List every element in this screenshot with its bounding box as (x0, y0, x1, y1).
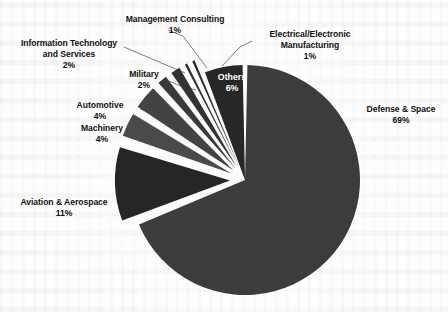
slice-label-electrical-electronic-name-line1: Electrical/Electronic (248, 29, 372, 40)
slice-label-automotive-name: Automotive (60, 100, 140, 111)
slice-label-others-pct: 6% (208, 83, 256, 94)
slice-label-military: Military 2% (118, 69, 170, 91)
slice-label-military-name: Military (118, 69, 170, 80)
slice-label-military-pct: 2% (118, 80, 170, 91)
slice-label-electrical-electronic-name-line2: Manufacturing (248, 40, 372, 51)
slice-label-info-tech-pct: 2% (10, 60, 128, 71)
pie-slices (115, 60, 360, 295)
slice-label-defense-space: Defense & Space 69% (358, 104, 444, 126)
slice-label-machinery-name: Machinery (66, 123, 138, 134)
slice-label-automotive-pct: 4% (60, 111, 140, 122)
slice-label-automotive: Automotive 4% (60, 100, 140, 122)
slice-label-management-consulting-name: Management Consulting (82, 14, 268, 25)
slice-label-aviation-aerospace-pct: 11% (6, 208, 122, 219)
slice-label-others: Others 6% (208, 72, 256, 95)
slice-label-others-name: Others (208, 72, 256, 83)
slice-label-electrical-electronic: Electrical/Electronic Manufacturing 1% (248, 29, 372, 63)
slice-label-machinery-pct: 4% (66, 134, 138, 145)
slice-label-info-tech-name-line1: Information Technology (10, 38, 128, 49)
slice-label-info-tech-name-line2: and Services (10, 49, 128, 60)
slice-label-electrical-electronic-pct: 1% (248, 51, 372, 62)
slice-label-aviation-aerospace: Aviation & Aerospace 11% (6, 197, 122, 219)
slice-label-defense-space-name: Defense & Space (358, 104, 444, 115)
slice-label-management-consulting: Management Consulting 1% (82, 14, 268, 36)
slice-label-management-consulting-pct: 1% (82, 25, 268, 36)
slice-label-machinery: Machinery 4% (66, 123, 138, 145)
slice-label-info-tech: Information Technology and Services 2% (10, 38, 128, 72)
slice-label-defense-space-pct: 69% (358, 115, 444, 126)
pie-chart-figure: Management Consulting 1% Information Tec… (0, 0, 448, 312)
slice-label-aviation-aerospace-name: Aviation & Aerospace (6, 197, 122, 208)
